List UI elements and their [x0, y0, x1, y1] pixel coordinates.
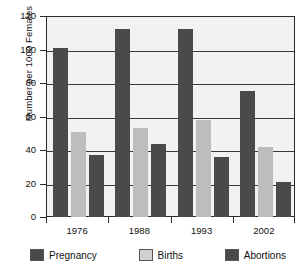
y-tick-label: 100: [0, 45, 36, 55]
x-axis-ticks: [46, 217, 295, 223]
bar-births-2002: [258, 147, 273, 217]
y-tick-label: 120: [0, 11, 36, 21]
chart-legend: PregnancyBirthsAbortions: [30, 249, 286, 261]
legend-label: Abortions: [244, 250, 286, 261]
legend-item-births[interactable]: Births: [139, 249, 184, 261]
x-tick-mark: [46, 217, 47, 223]
legend-swatch-icon: [225, 249, 239, 261]
bar-births-1976: [71, 132, 86, 217]
legend-item-abortions[interactable]: Abortions: [225, 249, 286, 261]
bar-pregnancy-1993: [178, 29, 193, 217]
y-tick-label: 60: [0, 112, 36, 122]
bar-births-1993: [196, 120, 211, 217]
x-tick-label: 2002: [233, 225, 295, 236]
y-tick-label: 20: [0, 179, 36, 189]
y-tick-label: 40: [0, 145, 36, 155]
legend-label: Pregnancy: [49, 250, 97, 261]
bar-group: [46, 16, 108, 217]
bar-pregnancy-1988: [115, 29, 130, 217]
x-tick-label: 1976: [46, 225, 108, 236]
bar-group: [108, 16, 170, 217]
y-tick-label: 0: [0, 212, 36, 222]
x-tick-mark: [294, 217, 295, 223]
x-tick-mark: [108, 217, 109, 223]
bar-pregnancy-2002: [240, 91, 255, 217]
bar-abortions-1988: [151, 144, 166, 217]
y-axis-title: Number per 1000 Females: [23, 0, 34, 144]
x-axis-labels: 1976198819932002: [46, 225, 295, 236]
x-tick-label: 1988: [108, 225, 170, 236]
bar-pregnancy-1976: [53, 48, 68, 217]
legend-swatch-icon: [139, 249, 153, 261]
bar-abortions-1976: [89, 155, 104, 217]
y-tick-label: 80: [0, 78, 36, 88]
bar-abortions-1993: [214, 157, 229, 217]
bar-chart: Number per 1000 Females 020406080100120 …: [0, 0, 306, 272]
x-tick-mark: [171, 217, 172, 223]
bar-group: [233, 16, 295, 217]
legend-item-pregnancy[interactable]: Pregnancy: [30, 249, 97, 261]
bar-abortions-2002: [276, 182, 291, 217]
bar-group: [171, 16, 233, 217]
legend-swatch-icon: [30, 249, 44, 261]
legend-label: Births: [158, 250, 184, 261]
bar-groups: [46, 16, 295, 217]
bar-births-1988: [133, 128, 148, 217]
x-tick-mark: [233, 217, 234, 223]
x-tick-label: 1993: [171, 225, 233, 236]
